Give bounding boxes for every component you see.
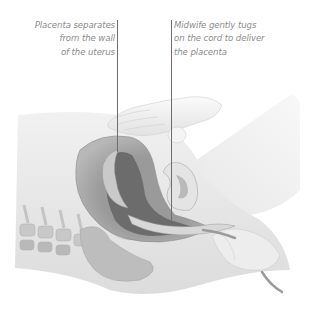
- callout-line: of the uterus: [35, 46, 115, 59]
- callout-placenta-separates: Placenta separates from the wall of the …: [35, 19, 115, 59]
- callout-line: on the cord to deliver: [174, 32, 265, 45]
- callout-line: from the wall: [35, 32, 115, 45]
- callout-line: Placenta separates: [35, 19, 115, 32]
- callout-line: Midwife gently tugs: [174, 19, 265, 32]
- leader-line-placenta: [117, 20, 118, 152]
- callout-line: the placenta: [174, 46, 265, 59]
- leader-line-cord: [171, 20, 172, 223]
- callout-midwife-tugs-cord: Midwife gently tugs on the cord to deliv…: [174, 19, 265, 59]
